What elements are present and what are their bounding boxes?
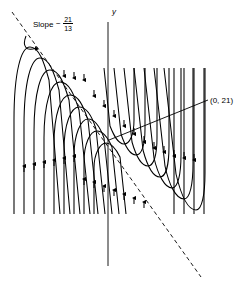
field-line-group-far-right — [174, 68, 204, 214]
trajectory-group-right — [104, 68, 205, 210]
trajectory-group-left — [14, 47, 126, 214]
direction-field-canvas — [0, 0, 240, 290]
direction-field-figure: Slope − 21 13 y (0, 21) — [0, 0, 240, 290]
